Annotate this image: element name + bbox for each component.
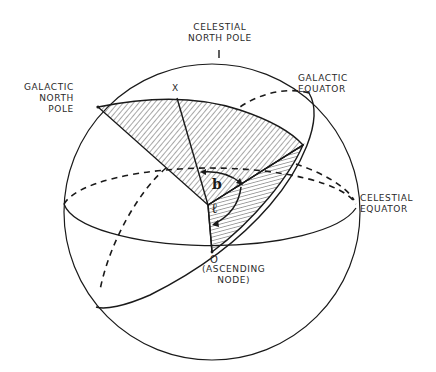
ascending-node-label: (ASCENDING NODE) xyxy=(202,264,265,286)
celestial-sphere-figure: CELESTIAL NORTH POLE GALACTIC NORTH POLE… xyxy=(0,0,436,372)
galactic-north-pole-point xyxy=(96,105,99,108)
celestial-north-pole-label: CELESTIAL NORTH POLE xyxy=(188,22,252,44)
angle-l-label: ℓ xyxy=(212,200,217,217)
galactic-equator-back-right xyxy=(296,164,354,200)
ascending-node-point xyxy=(211,251,214,254)
angle-b-label: b xyxy=(212,176,222,192)
galactic-equator-label: GALACTIC EQUATOR xyxy=(298,73,348,95)
celestial-equator-label: CELESTIAL EQUATOR xyxy=(360,193,413,215)
galactic-north-pole-label: GALACTIC NORTH POLE xyxy=(24,82,74,115)
point-x-label: X xyxy=(172,83,179,94)
galactic-equator-back-lower xyxy=(100,168,166,290)
